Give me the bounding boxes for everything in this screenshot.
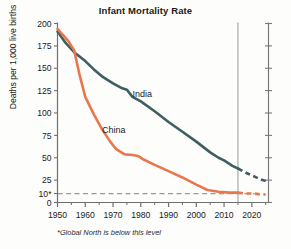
y-tick-label: 150	[37, 63, 52, 73]
x-tick-label: 1970	[103, 210, 122, 220]
y-tick-label: 175	[37, 41, 52, 51]
x-tick-label: 1980	[131, 210, 150, 220]
x-tick-label: 2000	[187, 210, 206, 220]
y-tick-label: 200	[37, 19, 52, 29]
y-tick-label: 10*	[39, 189, 53, 199]
y-tick-label: 75	[42, 131, 52, 141]
x-tick-label: 1990	[159, 210, 178, 220]
y-tick-label: 100	[37, 108, 52, 118]
x-tick-label: 1950	[48, 210, 67, 220]
y-tick-label: 125	[37, 86, 52, 96]
y-tick-label: 50	[42, 153, 52, 163]
series-label-china: China	[102, 125, 126, 135]
series-line-india	[58, 32, 238, 169]
series-line-china	[58, 29, 238, 193]
chart-plot: 010*255075100125150175200195019601970198…	[0, 0, 291, 249]
y-tick-label: 25	[42, 175, 52, 185]
x-tick-label: 1960	[76, 210, 95, 220]
chart-container: Infant Mortality Rate Deaths per 1,000 l…	[0, 0, 291, 249]
series-projection-china	[238, 193, 266, 195]
series-label-india: India	[132, 89, 152, 99]
series-projection-india	[238, 168, 266, 181]
chart-footnote: *Global North is below this level	[57, 228, 161, 237]
x-tick-label: 2020	[242, 210, 261, 220]
y-tick-label: 0	[47, 198, 52, 208]
x-tick-label: 2010	[215, 210, 234, 220]
